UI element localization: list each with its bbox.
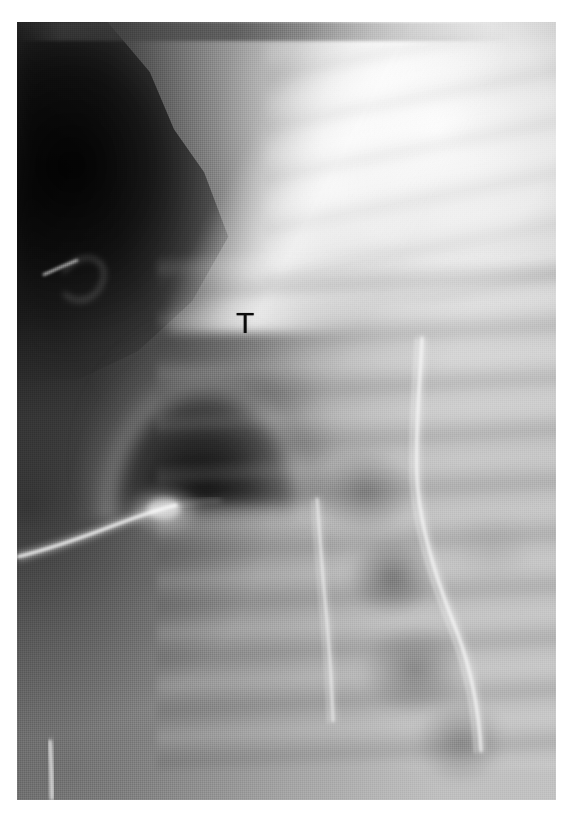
annotation-marker-t: T (236, 308, 254, 338)
wire-fragment-lower-left (50, 740, 52, 800)
radiopaque-devices-layer (17, 22, 556, 800)
enteric-tube-long-curved (411, 337, 481, 753)
enteric-tube-second-line (312, 498, 333, 724)
ecg-clip-upper-left (43, 258, 104, 300)
radiograph-figure: T (0, 0, 579, 814)
xray-image-plate (17, 22, 556, 800)
